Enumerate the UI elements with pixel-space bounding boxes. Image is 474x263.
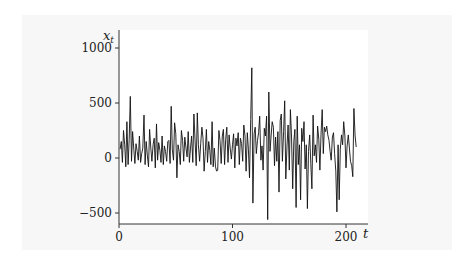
x-tick-label: 0 bbox=[115, 230, 123, 244]
time-series-chart: −50005001000 0100200 xt t bbox=[0, 0, 474, 263]
y-tick-label: 0 bbox=[104, 151, 112, 165]
x-tick-label: 200 bbox=[335, 230, 358, 244]
y-tick-label: 1000 bbox=[81, 41, 112, 55]
x-tick-label: 100 bbox=[221, 230, 244, 244]
x-axis-label: t bbox=[363, 226, 369, 241]
y-tick-label: 500 bbox=[89, 96, 112, 110]
y-tick-label: −500 bbox=[79, 206, 112, 220]
x-axis-ticks: 0100200 bbox=[115, 224, 357, 244]
y-axis-label: xt bbox=[103, 28, 114, 45]
y-axis-ticks: −50005001000 bbox=[79, 41, 119, 220]
